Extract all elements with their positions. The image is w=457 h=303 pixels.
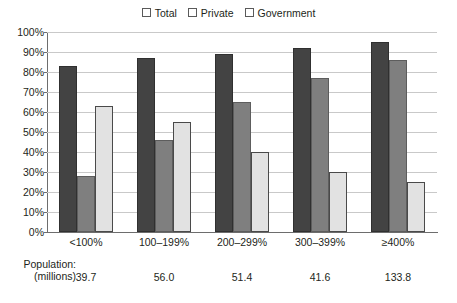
population-value: 56.0 [154, 271, 174, 283]
x-axis-tick-label: 300–399% [295, 236, 345, 248]
legend-swatch-total-icon [142, 8, 151, 17]
legend-label-total: Total [155, 8, 177, 19]
population-footer: Population: (millions) 39.756.051.441.61… [0, 259, 457, 289]
bar-private-2 [233, 102, 251, 232]
bar-group [215, 32, 269, 232]
legend-item-private: Private [188, 7, 234, 18]
population-value: 133.8 [385, 271, 411, 283]
x-axis-labels: <100%100–199%200–299%300–399%≥400% [47, 236, 437, 252]
legend-item-total: Total [142, 7, 177, 18]
bar-government-3 [329, 172, 347, 232]
x-axis-tick-label: <100% [70, 236, 103, 248]
legend-swatch-government-icon [245, 8, 254, 17]
bar-private-3 [311, 78, 329, 232]
population-value: 51.4 [232, 271, 252, 283]
bar-government-4 [407, 182, 425, 232]
bar-group [371, 32, 425, 232]
grouped-bar-chart: Total Private Government 100%90%80%70%60… [0, 0, 457, 303]
bar-group [137, 32, 191, 232]
population-caption: Population: (millions) [0, 259, 76, 282]
legend-swatch-private-icon [188, 8, 197, 17]
x-axis-tick-label: ≥400% [382, 236, 415, 248]
legend-label-private: Private [201, 8, 234, 19]
population-caption-line1: Population: [23, 258, 76, 270]
bar-total-2 [215, 54, 233, 232]
legend-item-government: Government [245, 7, 316, 18]
bar-private-4 [389, 60, 407, 232]
plot-area [47, 32, 437, 232]
bar-group [293, 32, 347, 232]
population-value: 39.7 [76, 271, 96, 283]
bar-private-0 [77, 176, 95, 232]
legend-label-government: Government [258, 8, 316, 19]
x-axis-tick-label: 200–299% [217, 236, 267, 248]
x-axis-line [47, 232, 438, 233]
bar-government-0 [95, 106, 113, 232]
bar-total-1 [137, 58, 155, 232]
bar-total-0 [59, 66, 77, 232]
bar-government-2 [251, 152, 269, 232]
bar-total-3 [293, 48, 311, 232]
y-axis-ticks [0, 32, 48, 232]
x-axis-tick-label: 100–199% [139, 236, 189, 248]
bar-private-1 [155, 140, 173, 232]
bar-total-4 [371, 42, 389, 232]
bar-group [59, 32, 113, 232]
bar-government-1 [173, 122, 191, 232]
chart-legend: Total Private Government [0, 7, 457, 18]
population-value: 41.6 [310, 271, 330, 283]
population-caption-line2: (millions) [0, 271, 76, 283]
